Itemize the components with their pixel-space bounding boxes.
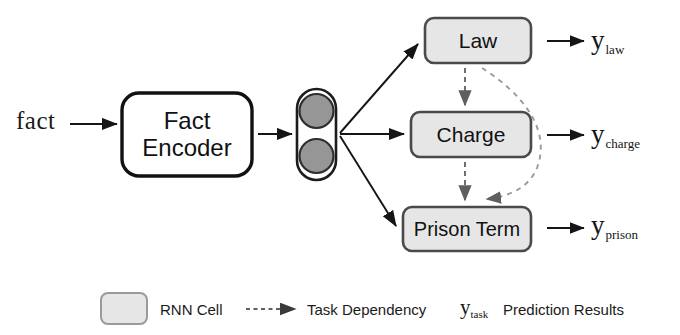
fact-encoder-box: [122, 93, 252, 176]
figure-canvas: fact Fact Encoder Law Charge Prison Term…: [0, 0, 680, 335]
legend-rnn-cell-label: RNN Cell: [160, 301, 223, 318]
input-fact-label: fact: [16, 107, 55, 135]
legend-prediction-symbol: ytask: [460, 297, 488, 318]
prediction-base-prison: y: [591, 210, 605, 240]
prediction-subscript-charge: charge: [606, 136, 640, 151]
prediction-label-prison: yprison: [591, 212, 637, 239]
legend-task-dependency-label: Task Dependency: [307, 301, 426, 318]
prediction-label-charge: ycharge: [591, 121, 639, 148]
law-box: [425, 18, 531, 63]
diagram-vector-layer: [0, 0, 680, 335]
prison-term-box: [403, 207, 531, 251]
arrow-rnn-to-prison: [340, 136, 396, 226]
prediction-subscript-prison: prison: [606, 227, 639, 242]
rnn-cell-capsule: [297, 89, 336, 180]
arrow-rnn-to-law: [340, 44, 418, 133]
legend-prediction-subscript: task: [471, 308, 489, 320]
legend-prediction-base: y: [460, 295, 471, 319]
rnn-cell-unit-top: [300, 94, 334, 128]
rnn-cell-unit-bottom: [300, 139, 334, 173]
prediction-subscript-law: law: [606, 42, 625, 57]
legend-rnn-cell-swatch: [100, 292, 148, 325]
legend-prediction-results-label: Prediction Results: [503, 301, 624, 318]
charge-box: [411, 112, 531, 157]
prediction-label-law: ylaw: [591, 27, 623, 54]
prediction-base-charge: y: [591, 119, 605, 149]
prediction-base-law: y: [591, 25, 605, 55]
